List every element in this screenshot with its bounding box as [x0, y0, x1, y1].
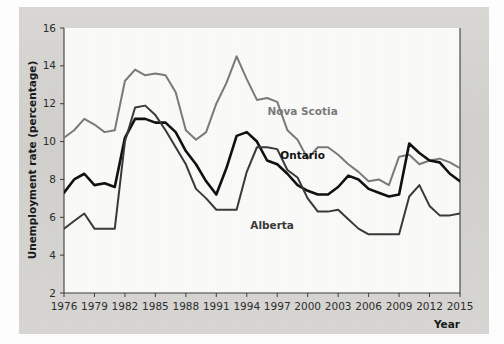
x-tick-label: 1991 — [203, 300, 230, 312]
series-label-alberta: Alberta — [250, 219, 294, 231]
x-tick-label: 2006 — [355, 300, 382, 312]
x-tick-label: 2000 — [294, 300, 321, 312]
x-axis-title: Year — [433, 318, 461, 330]
x-tick-label: 1979 — [81, 300, 108, 312]
x-tick-label: 1976 — [51, 300, 78, 312]
x-tick-label: 1985 — [142, 300, 169, 312]
y-tick-labels: 246810121416 — [43, 22, 57, 299]
x-tick-label: 1997 — [264, 300, 291, 312]
y-tick-label: 6 — [49, 211, 56, 223]
x-tick-labels: 1976197919821985198819911994199720002003… — [51, 300, 474, 312]
x-tick-label: 1988 — [172, 300, 199, 312]
y-tick-label: 2 — [49, 287, 56, 299]
x-tick-label: 2015 — [447, 300, 474, 312]
series-label-nova-scotia: Nova Scotia — [267, 105, 337, 117]
y-tick-label: 16 — [43, 22, 57, 34]
x-tick-label: 2003 — [325, 300, 352, 312]
line-chart: 246810121416 197619791982198519881991199… — [0, 0, 504, 344]
x-tick-label: 1994 — [233, 300, 260, 312]
y-axis-title: Unemployment rate (percentage) — [26, 61, 38, 260]
y-tick-label: 12 — [43, 97, 56, 109]
chart-figure: 246810121416 197619791982198519881991199… — [0, 0, 504, 344]
y-tick-label: 10 — [43, 135, 56, 147]
series-label-ontario: Ontario — [280, 149, 325, 161]
y-tick-label: 14 — [43, 59, 57, 71]
x-tick-label: 1982 — [112, 300, 139, 312]
x-tick-label: 2009 — [386, 300, 413, 312]
x-tick-label: 2012 — [416, 300, 443, 312]
y-tick-label: 8 — [49, 173, 56, 185]
y-tick-label: 4 — [49, 249, 56, 261]
